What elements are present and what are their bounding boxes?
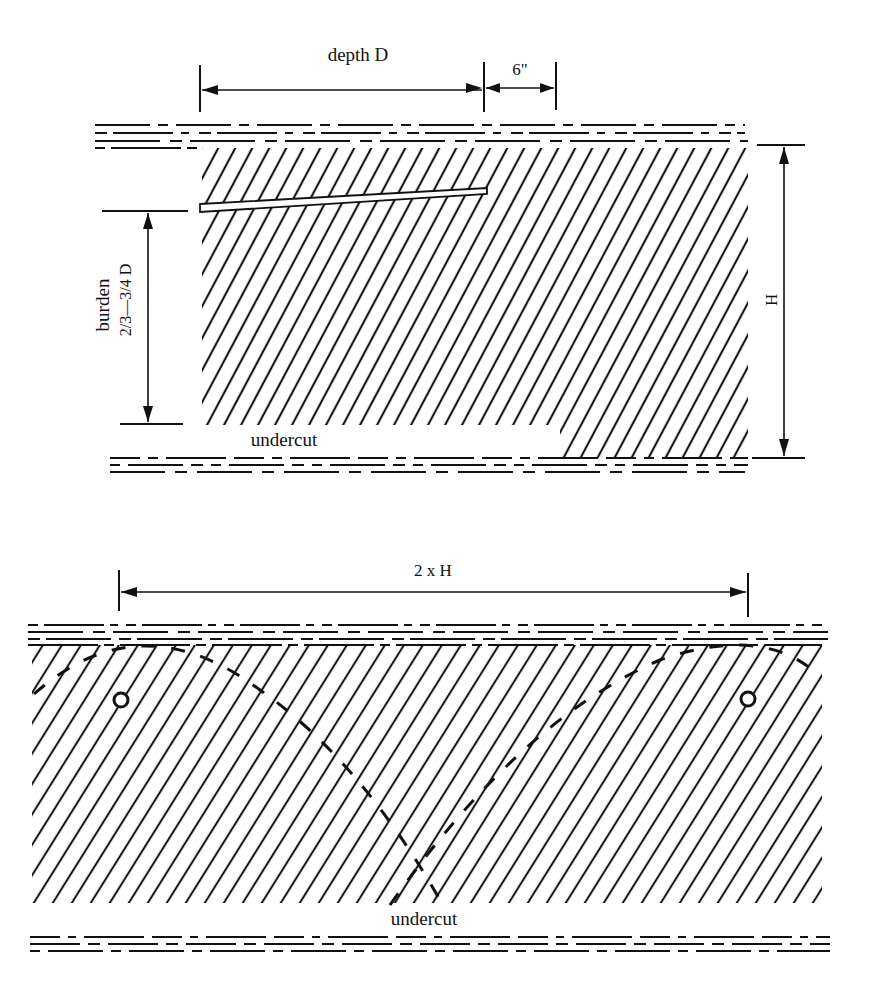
strata-top-floor [110,458,748,472]
burden-label: burden [92,278,113,331]
undercut-label-top: undercut [251,429,318,450]
depth-label: depth D [328,44,389,65]
rock-hatch-bottom [20,645,830,905]
blasting-diagram: depth D 6" burden 2/3—3/4 D H undercut [0,0,869,1005]
strata-bottom-roof [28,625,828,645]
top-panel: depth D 6" burden 2/3—3/4 D H undercut [92,44,805,472]
burden-dimension [102,211,188,424]
bottom-panel: 2 x H undercut [20,561,830,951]
clearance-label: 6" [512,60,527,79]
height-label: H [762,294,781,306]
strata-bottom-floor [30,937,830,951]
shothole-right-icon [741,692,755,706]
spacing-label: 2 x H [414,561,452,580]
depth-dimension [200,62,556,112]
burden-ratio-label: 2/3—3/4 D [117,264,134,336]
undercut-label-bottom: undercut [391,908,458,929]
shothole-left-icon [114,693,128,707]
